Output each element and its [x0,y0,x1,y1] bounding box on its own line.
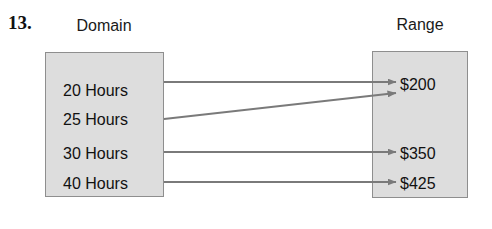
domain-item-2: 25 Hours [63,112,128,128]
range-item-2: $350 [400,146,436,162]
domain-item-4: 40 Hours [63,176,128,192]
mapping-diagram-figure: 13. Domain Range 20 Hours 25 Hours 30 Ho… [0,0,492,229]
range-heading: Range [372,16,468,34]
mapping-arrow-2 [164,93,396,119]
range-item-1: $200 [400,77,436,93]
domain-heading: Domain [45,17,163,35]
problem-number: 13. [8,12,32,34]
domain-item-3: 30 Hours [63,146,128,162]
domain-item-1: 20 Hours [63,83,128,99]
range-item-3: $425 [400,176,436,192]
